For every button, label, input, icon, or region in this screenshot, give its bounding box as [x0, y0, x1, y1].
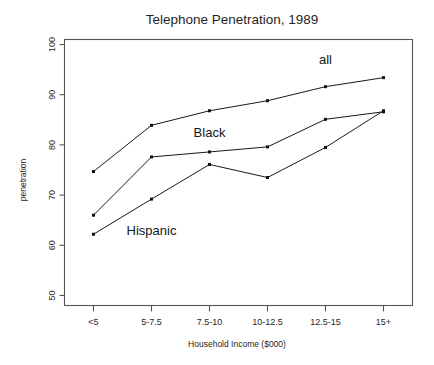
series-label-black: Black: [194, 125, 226, 140]
data-point-all-5: [382, 76, 385, 79]
series-line-black: [94, 112, 384, 215]
chart-container: Telephone Penetration, 1989 penetration …: [0, 0, 434, 365]
y-tick-label: 100: [48, 37, 58, 52]
data-point-black-2: [208, 150, 211, 153]
series-annotations: allBlackHispanic: [127, 52, 333, 239]
data-point-all-3: [266, 99, 269, 102]
series-label-all: all: [319, 52, 332, 67]
x-axis-title: Household Income ($000): [188, 339, 286, 349]
data-point-all-0: [92, 170, 95, 173]
data-point-all-4: [324, 85, 327, 88]
series-line-hispanic: [94, 111, 384, 234]
x-tick-label: 12.5-15: [310, 317, 341, 327]
y-axis-ticks: 5060708090100: [48, 37, 65, 300]
y-tick-label: 50: [48, 290, 58, 300]
data-point-hispanic-2: [208, 163, 211, 166]
data-point-black-4: [324, 118, 327, 121]
series-line-all: [94, 78, 384, 172]
x-tick-label: 10-12.5: [252, 317, 283, 327]
y-tick-label: 60: [48, 240, 58, 250]
y-axis-title: penetration: [18, 158, 28, 201]
x-tick-label: 5-7.5: [141, 317, 162, 327]
data-point-black-3: [266, 145, 269, 148]
y-tick-label: 80: [48, 140, 58, 150]
y-tick-label: 70: [48, 190, 58, 200]
chart-title: Telephone Penetration, 1989: [146, 12, 319, 27]
x-axis-ticks: <55-7.57.5-1010-12.512.5-1515+: [88, 306, 391, 327]
plot-frame: [65, 40, 413, 306]
data-point-black-1: [150, 155, 153, 158]
telephone-penetration-line-chart: Telephone Penetration, 1989 penetration …: [0, 0, 434, 365]
series-label-hispanic: Hispanic: [127, 223, 177, 238]
data-point-all-2: [208, 109, 211, 112]
data-point-hispanic-3: [266, 176, 269, 179]
data-point-hispanic-4: [324, 146, 327, 149]
data-point-hispanic-0: [92, 233, 95, 236]
x-tick-label: <5: [88, 317, 98, 327]
data-point-hispanic-1: [150, 198, 153, 201]
data-point-black-0: [92, 214, 95, 217]
y-tick-label: 90: [48, 90, 58, 100]
series-layer: [92, 76, 385, 236]
data-point-hispanic-5: [382, 109, 385, 112]
x-tick-label: 7.5-10: [197, 317, 223, 327]
x-tick-label: 15+: [376, 317, 391, 327]
data-point-all-1: [150, 124, 153, 127]
